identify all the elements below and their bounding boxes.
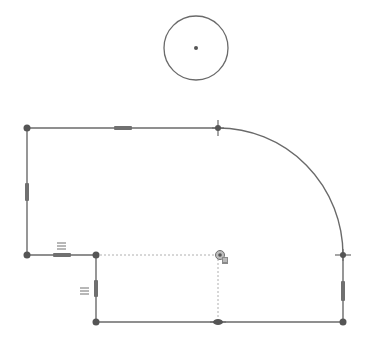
point-inner-corner[interactable] [93,252,100,259]
equal-constraint-icon[interactable] [57,243,66,249]
sketch-canvas[interactable] [0,0,367,340]
vertical-constraint-icon[interactable] [25,183,29,201]
horizontal-constraint-markers [53,126,132,257]
point-left-bottom[interactable] [24,252,31,259]
arc-corner[interactable] [218,128,343,255]
point-arc-end[interactable] [340,252,346,258]
circle-center-point[interactable] [194,46,198,50]
horizontal-constraint-icon[interactable] [53,253,71,257]
sketch-points [24,125,347,326]
construction-lines [96,255,218,322]
tangent-markers [210,120,351,322]
point-bottom-left[interactable] [93,319,100,326]
horizontal-constraint-icon[interactable] [114,126,132,130]
vertical-constraint-icon[interactable] [341,281,345,301]
point-arc-start[interactable] [215,125,221,131]
point-bottom-right[interactable] [340,319,347,326]
point-top-left[interactable] [24,125,31,132]
equal-constraint-labels [57,243,89,294]
point-bottom-mid[interactable] [213,319,223,325]
snap-cursor-icon [216,251,229,265]
equal-constraint-icon[interactable] [80,288,89,294]
sketch-profile [27,128,343,322]
vertical-constraint-markers [25,183,345,301]
vertical-constraint-icon[interactable] [94,280,98,297]
sketch-circle[interactable] [164,16,228,80]
